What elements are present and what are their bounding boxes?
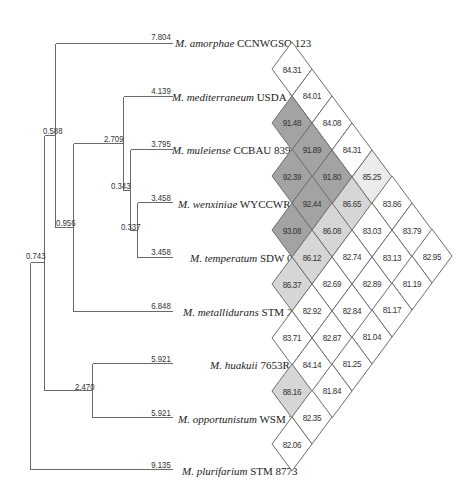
branch-length-label: 4.139	[151, 86, 171, 96]
taxon-species-name: M. plurifarium	[182, 465, 247, 477]
branch-length-label: 7.804	[151, 32, 171, 42]
taxon-species-name: M. mediterraneum	[172, 91, 254, 103]
node-support-label: 0.588	[43, 126, 63, 136]
taxon-species-name: M. huakuii	[210, 359, 258, 371]
branch-length-label: 3.795	[151, 139, 171, 149]
node-support-label: 0.956	[56, 218, 76, 228]
matrix-cell: 82.06	[272, 417, 312, 471]
branch-length-label: 3.458	[151, 247, 171, 257]
node-support-label: 0.743	[26, 251, 46, 261]
node-support-label: 2.709	[104, 134, 124, 144]
taxon-species-name: M. opportunistum	[178, 413, 257, 425]
branch-length-label: 3.458	[151, 193, 171, 203]
branch-length-label: 5.921	[151, 408, 171, 418]
taxon-species-name: M. temperatum	[190, 252, 257, 264]
node-support-label: 0.337	[121, 222, 141, 232]
node-support-label: 2.470	[75, 382, 95, 392]
node-support-label: 0.343	[111, 181, 131, 191]
branch-length-label: 6.848	[151, 301, 171, 311]
taxon-species-name: M. wenxiniae	[178, 198, 237, 210]
taxon-species-name: M. metallidurans	[183, 306, 259, 318]
taxon-species-name: M. muleiense	[172, 144, 231, 156]
branch-length-label: 5.921	[151, 354, 171, 364]
matrix-cell-value: 82.06	[283, 439, 302, 450]
branch-length-label: 9.135	[151, 460, 171, 470]
taxon-species-name: M. amorphae	[175, 37, 234, 49]
